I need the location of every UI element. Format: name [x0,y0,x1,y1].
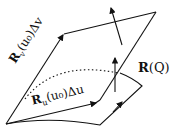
rq-label: R(Q) [138,60,170,75]
diagram-canvas: Rv(u₀)Δv Ru(u₀)Δu R(Q) [0,0,174,132]
ru-vector [6,103,96,124]
normal-arrow-upper [111,8,122,45]
